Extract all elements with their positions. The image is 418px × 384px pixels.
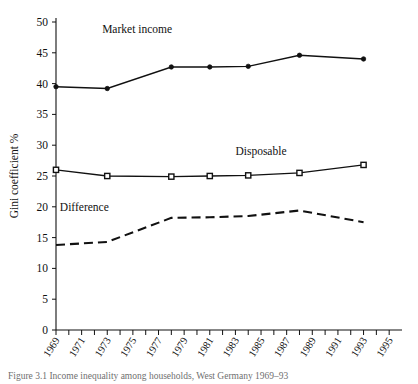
series-label-2: Difference <box>60 201 109 213</box>
x-axis-tick-label: 1969 <box>41 335 61 359</box>
y-axis-tick-label: 5 <box>42 293 48 305</box>
x-axis-tick-label: 1989 <box>298 335 318 359</box>
y-axis-tick-label: 25 <box>37 170 49 182</box>
x-axis-tick-label: 1979 <box>169 335 189 359</box>
series-marker <box>53 167 58 172</box>
y-axis-tick-label: 45 <box>37 47 49 59</box>
series-marker <box>105 173 110 178</box>
y-axis-tick-label: 20 <box>37 201 49 213</box>
y-axis-title: Gini coefficient % <box>8 133 20 218</box>
series-marker <box>208 65 212 69</box>
series-marker <box>297 53 301 57</box>
series-marker <box>361 162 366 167</box>
gini-coefficient-line-chart: 05101520253035404550Gini coefficient %19… <box>0 0 418 384</box>
series-marker <box>207 173 212 178</box>
x-axis-tick-label: 1991 <box>323 335 343 359</box>
x-axis-tick-label: 1987 <box>272 335 292 359</box>
series-marker <box>105 86 109 90</box>
series-label-0: Market income <box>102 23 172 35</box>
series-marker <box>297 170 302 175</box>
y-axis-tick-label: 0 <box>42 324 48 336</box>
x-axis-tick-label: 1977 <box>144 335 164 359</box>
series-marker <box>246 64 250 68</box>
series-label-1: Disposable <box>235 145 286 158</box>
x-axis-tick-label: 1973 <box>92 335 112 359</box>
x-axis-tick-label: 1971 <box>67 335 87 359</box>
series-marker <box>246 173 251 178</box>
y-axis-tick-label: 10 <box>37 262 49 274</box>
figure-container: 05101520253035404550Gini coefficient %19… <box>0 0 418 384</box>
series-marker <box>169 174 174 179</box>
y-axis-tick-label: 50 <box>37 16 49 28</box>
series-marker <box>54 84 58 88</box>
figure-caption: Figure 3.1 Income inequality among house… <box>8 371 412 382</box>
x-axis-tick-label: 1983 <box>221 335 241 359</box>
x-axis-tick-label: 1981 <box>195 335 215 359</box>
x-axis-tick-label: 1993 <box>349 335 369 359</box>
y-axis-tick-label: 35 <box>37 108 49 120</box>
series-marker <box>169 65 173 69</box>
y-axis-tick-label: 15 <box>37 232 49 244</box>
y-axis-tick-label: 30 <box>37 139 49 151</box>
series-line-2 <box>56 211 364 245</box>
x-axis-tick-label: 1995 <box>374 335 394 359</box>
series-line-0 <box>56 55 364 88</box>
series-marker <box>361 57 365 61</box>
x-axis-tick-label: 1975 <box>118 335 138 359</box>
y-axis-tick-label: 40 <box>37 78 49 90</box>
x-axis-tick-label: 1985 <box>246 335 266 359</box>
